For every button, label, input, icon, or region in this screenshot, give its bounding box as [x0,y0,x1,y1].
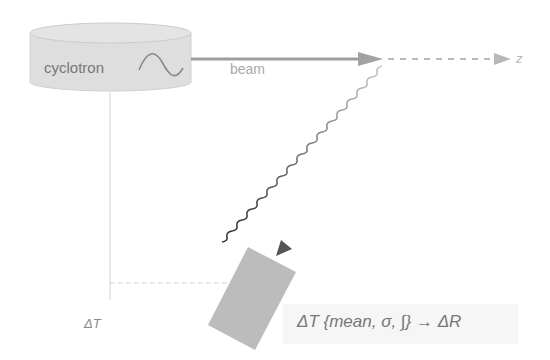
beam-label: beam [230,61,265,77]
photon-arrow-head [276,240,292,256]
photon-wavy-line [222,66,382,242]
cyclotron-label: cyclotron [44,59,104,76]
beam-arrow-head [358,52,383,66]
z-axis-label: z [516,51,523,66]
cyclotron-cylinder [30,23,191,91]
delta-t-label: ΔT [84,316,101,331]
equation-label: ΔT {mean, σ, ∫} → ΔR [297,312,461,332]
z-axis-arrow-head [494,53,511,65]
